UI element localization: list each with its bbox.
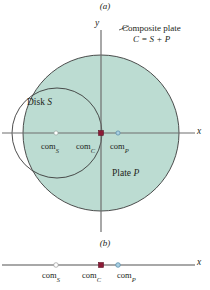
com-c-label-panel-b: comC [82,270,101,282]
com-p-label-panel-a: comP [110,141,129,153]
x-axis-label-panel-b: x [197,257,201,267]
panel-b-label: (b) [85,238,125,248]
com-p-marker-panel-a [116,131,120,135]
com-s-label-panel-b: comS [42,270,60,282]
com-s-label-panel-b-sub: S [57,276,60,283]
disk-s-label-symbol: S [47,97,52,107]
com-c-label-panel-a-text: com [76,141,91,151]
com-s-label-panel-a-text: com [41,141,56,151]
disk-s-label-text: Disk [27,97,47,107]
plate-p-label-text: Plate [112,168,133,178]
com-p-label-panel-b: comP [117,270,136,282]
com-s-marker-panel-b [54,263,59,268]
composite-plate-callout-equation: C = S + P [133,35,170,44]
x-axis-label-panel-a: x [197,126,201,136]
com-c-marker-panel-b [99,263,104,268]
com-s-label-panel-a: comS [41,141,59,153]
com-s-label-panel-b-text: com [42,270,57,280]
com-p-label-panel-a-sub: P [125,147,129,154]
com-c-marker-panel-a [99,131,104,136]
disk-s-label: Disk S [27,98,52,108]
plate-p-label: Plate P [112,169,139,179]
com-c-label-panel-a: comC [76,141,95,153]
com-p-label-panel-a-text: com [110,141,125,151]
com-c-label-panel-a-sub: C [91,147,95,154]
plate-p-label-symbol: P [133,168,139,178]
y-axis-label-panel-a: y [95,18,99,28]
com-p-marker-panel-b [116,263,121,268]
composite-plate-callout-title: Composite plate [122,24,181,33]
com-s-marker-panel-a [54,131,58,135]
physics-figure: (a) Composite plate C = S + P Dis [0,0,210,290]
com-p-label-panel-b-text: com [117,270,132,280]
com-p-label-panel-b-sub: P [132,276,136,283]
com-c-label-panel-b-sub: C [97,276,101,283]
com-s-label-panel-a-sub: S [56,147,59,154]
com-c-label-panel-b-text: com [82,270,97,280]
